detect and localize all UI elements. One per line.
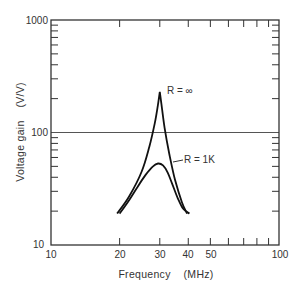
y-axis-title: Voltage gain (V/V): [14, 82, 26, 182]
curve-r-1k: [120, 163, 190, 213]
annotation-r-1k: R = 1K: [184, 154, 215, 165]
y-tick-label-1000: 1000: [26, 15, 49, 26]
data-series: [117, 92, 189, 214]
x-tick-label-20: 20: [114, 249, 126, 260]
x-tick-label-50: 50: [205, 249, 217, 260]
y-tick-label-100: 100: [31, 127, 48, 138]
x-tick-label-30: 30: [154, 249, 166, 260]
x-tick-label-100: 100: [272, 249, 289, 260]
gain-frequency-chart: 1000 100 10 10 20 30 40 50 100 Frequency…: [0, 0, 301, 294]
annotation-leader-r-1k: [173, 160, 183, 162]
x-tick-label-10: 10: [45, 249, 57, 260]
x-axis-title: Frequency (MHz): [118, 268, 213, 280]
annotation-r-infinity: R = ∞: [167, 85, 193, 96]
x-tick-label-40: 40: [182, 249, 194, 260]
y-tick-label-10: 10: [33, 239, 45, 250]
